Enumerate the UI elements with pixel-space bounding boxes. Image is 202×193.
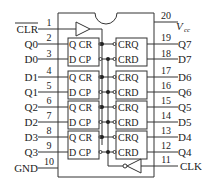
pin-number: 7 [47,110,52,121]
pin-number: 2 [47,32,52,43]
cell-label: CRD [118,117,139,128]
pin-label: Q7 [178,38,192,50]
pin-number: 17 [161,65,171,76]
pin-label: D4 [178,131,192,143]
cell-label: CRD [118,87,139,98]
pin-label: Q1 [25,86,38,98]
pin-label: GND [14,162,38,174]
pin-label: Q0 [25,38,39,50]
cell-label: Q CR [69,39,92,50]
pin-number: 3 [47,48,52,59]
pin-number: 18 [161,48,171,59]
pin-label: CLK [180,160,202,172]
pin-label: D5 [178,116,192,128]
pin-label-vcc-sub: cc [184,26,191,34]
cell-label: CRD [118,147,139,158]
pin-label: D6 [178,71,192,83]
pin-number: 20 [161,10,171,21]
clk-inverter [127,159,141,173]
cell-label: CRQ [118,72,139,83]
pin-label-clr: CLR [17,23,39,35]
cell-label: CRQ [118,132,139,143]
cell-label: D CP [69,87,91,98]
pin-number: 16 [161,80,171,91]
ic-pinout-diagram: Q CR D CP Q CR D CP Q CR D CP Q CR D CP … [0,0,202,193]
pin-label: D1 [25,71,38,83]
cell-label: D CP [69,117,91,128]
cell-label: D CP [69,147,91,158]
pin-number: 4 [47,65,52,76]
pin-label: D2 [25,116,38,128]
pin-label: D0 [25,53,39,65]
pin-label: Q2 [25,101,38,113]
pin-label: D7 [178,53,192,65]
pin-number: 12 [161,140,171,151]
pin-number: 11 [161,154,171,165]
pin-label: Q6 [178,86,192,98]
pin-number: 5 [47,80,52,91]
cell-label: CRQ [118,39,139,50]
pin-label: Q3 [25,146,39,158]
cell-label: Q CR [69,102,92,113]
pin-number: 13 [161,125,171,136]
pin-number: 19 [161,32,171,43]
pin-number: 14 [161,110,171,121]
cell-label: Q CR [69,132,92,143]
cell-label: Q CR [69,72,92,83]
pin-label-vcc: V [176,20,184,32]
cell-label: CRD [118,54,139,65]
clr-buffer [76,22,90,36]
pin-number: 8 [47,125,52,136]
pin-number: 10 [44,156,54,167]
pin-label: D3 [25,131,39,143]
pin-label: Q4 [178,146,192,158]
cell-label: D CP [69,54,91,65]
cell-label: CRQ [118,102,139,113]
pin-label: Q5 [178,101,192,113]
pin-number: 1 [47,17,52,28]
pin-number: 15 [161,95,171,106]
pin-number: 9 [47,140,52,151]
pin-number: 6 [47,95,52,106]
